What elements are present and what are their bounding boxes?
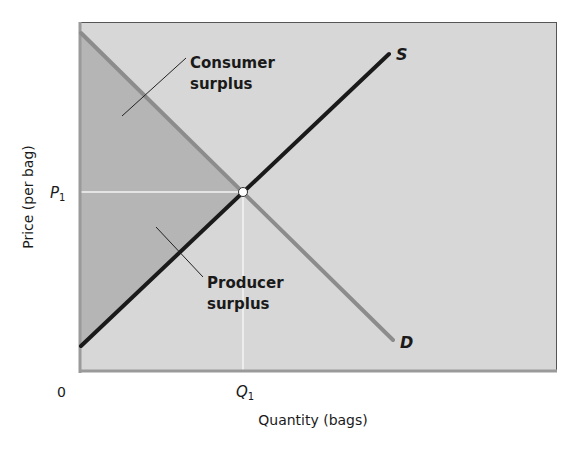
consumer-surplus-label-line2: surplus — [190, 75, 253, 93]
p1-tick-label: P1 — [50, 184, 65, 203]
supply-label: S — [396, 45, 408, 64]
surplus-chart: S D Consumer surplus Producer surplus P1… — [0, 0, 586, 455]
origin-tick-label: 0 — [57, 384, 66, 400]
consumer-surplus-label-line1: Consumer — [190, 54, 275, 72]
equilibrium-point — [239, 188, 248, 197]
y-axis-title: Price (per bag) — [20, 145, 36, 249]
demand-label: D — [400, 333, 413, 352]
producer-surplus-label-line2: surplus — [207, 295, 270, 313]
q1-tick-label: Q1 — [236, 383, 254, 402]
producer-surplus-label-line1: Producer — [207, 274, 284, 292]
x-axis-title: Quantity (bags) — [258, 412, 368, 428]
